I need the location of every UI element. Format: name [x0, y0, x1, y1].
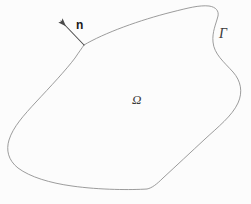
normal-vector-label-n: n — [76, 19, 83, 31]
figure-canvas: Ω Γ n — [0, 0, 251, 204]
domain-label-omega: Ω — [132, 93, 141, 106]
domain-diagram-svg — [0, 0, 251, 204]
boundary-curve-gamma — [8, 6, 241, 190]
boundary-label-gamma: Γ — [219, 27, 227, 41]
